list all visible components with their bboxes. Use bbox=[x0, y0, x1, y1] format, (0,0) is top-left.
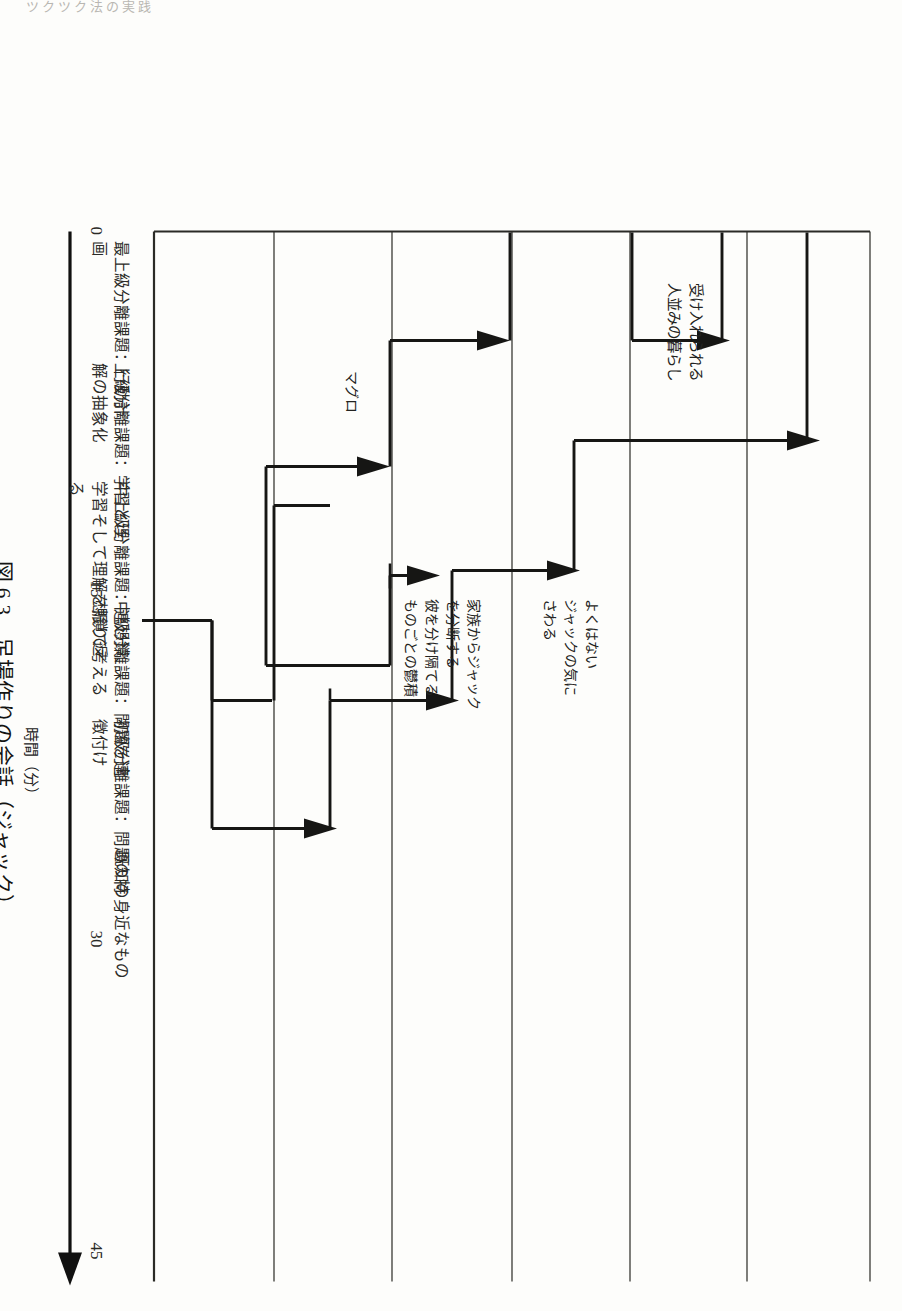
time-axis bbox=[58, 231, 82, 1285]
xtick-45: 45 bbox=[85, 1242, 107, 1259]
annotation-family-separation: 家族からジャック を分断する 彼を分け隔てる ものごとの鬱積 bbox=[400, 598, 484, 709]
annotation-tuna: マグロ bbox=[341, 370, 362, 412]
figure-caption: 図 6.3 足場作りの会話（ジャック） bbox=[0, 560, 16, 915]
axis-label-time: 時間（分） bbox=[21, 726, 40, 801]
xtick-30: 30 bbox=[85, 930, 107, 947]
step-stub-marks bbox=[330, 563, 390, 700]
lane-separators bbox=[274, 231, 870, 1281]
xtick-15: 15 bbox=[85, 580, 107, 597]
annotation-not-good: よくはない ジャックの気に さわる bbox=[539, 598, 602, 695]
figure-body: 最上級分離課題：行動計 画 上級分離課題：学習と理 解の抽象化 中上級分離課題：… bbox=[0, 0, 902, 1311]
figure-page: ツクツク法の実践 bbox=[0, 0, 902, 1311]
step-trajectory bbox=[154, 505, 330, 700]
lane-label-1: 既知の身近なもの bbox=[110, 850, 132, 978]
xtick-0: 0 bbox=[85, 226, 107, 235]
annotation-accepted-life: 受け入れられる 人並みの暮らし bbox=[663, 282, 707, 380]
rotated-figure-stage: 最上級分離課題：行動計 画 上級分離課題：学習と理 解の抽象化 中上級分離課題：… bbox=[0, 0, 902, 1311]
